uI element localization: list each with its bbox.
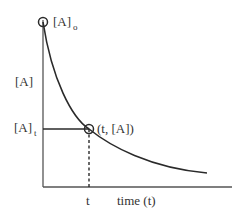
t-tick-label: t [86, 194, 90, 207]
y-axis-label: [A] [15, 75, 33, 88]
initial-conc-sub: o [73, 22, 78, 32]
point-label: (t, [A]) [97, 122, 134, 135]
conc-at-t-main: [A] [14, 120, 32, 135]
x-axis-label: time (t) [117, 194, 156, 207]
decay-curve [43, 22, 207, 173]
conc-at-t-sub: t [34, 128, 37, 138]
initial-conc-main: [A] [53, 14, 71, 29]
decay-chart [0, 0, 239, 221]
initial-conc-label: [A]o [53, 15, 78, 28]
conc-at-t-label: [A]t [14, 121, 37, 134]
